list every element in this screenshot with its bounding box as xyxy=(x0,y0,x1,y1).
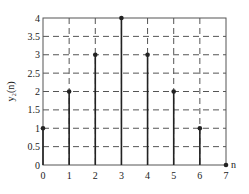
y-tick-label: 0.5 xyxy=(28,141,41,152)
y-tick-label: 0 xyxy=(35,160,40,171)
x-tick-label: 5 xyxy=(171,170,176,181)
y-tick-label: 1 xyxy=(35,123,40,134)
y-axis-label: y₂(n) xyxy=(5,81,17,101)
stem-marker xyxy=(171,89,176,94)
x-tick-labels: 01234567 xyxy=(41,170,229,181)
x-tick-label: 2 xyxy=(93,170,98,181)
y-tick-label: 3.5 xyxy=(28,31,41,42)
stem-marker xyxy=(119,16,124,21)
stem-marker xyxy=(145,52,150,57)
stem-marker xyxy=(67,89,72,94)
stem-marker xyxy=(224,163,229,168)
x-tick-label: 3 xyxy=(119,170,124,181)
x-tick-label: 7 xyxy=(224,170,229,181)
x-tick-label: 6 xyxy=(197,170,202,181)
y-tick-label: 1.5 xyxy=(28,104,41,115)
y-tick-label: 3 xyxy=(35,49,40,60)
x-tick-label: 4 xyxy=(145,170,150,181)
y-tick-label: 2 xyxy=(35,86,40,97)
x-tick-label: 1 xyxy=(67,170,72,181)
stem-marker xyxy=(198,126,203,131)
stem-marker xyxy=(93,52,98,57)
stem-chart: 00.511.522.533.54 01234567 n y₂(n) xyxy=(0,0,249,194)
x-tick-label: 0 xyxy=(41,170,46,181)
y-tick-label: 2.5 xyxy=(28,68,41,79)
y-tick-label: 4 xyxy=(35,13,40,24)
x-axis-label: n xyxy=(231,159,236,170)
y-tick-labels: 00.511.522.533.54 xyxy=(28,13,41,171)
stem-marker xyxy=(41,126,46,131)
